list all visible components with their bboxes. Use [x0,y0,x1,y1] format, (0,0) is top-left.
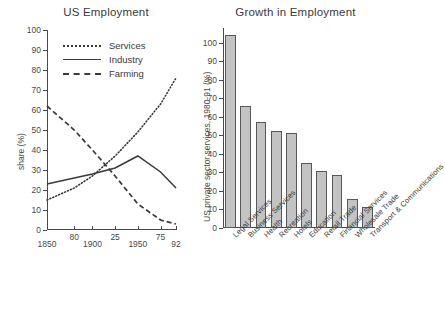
legend-item-services: Services [63,38,173,52]
series-line-services [47,78,176,200]
y-tick-label-90: 90 [208,56,223,66]
y-tick-label-10: 10 [32,205,47,215]
y-tick-label-0: 0 [36,225,47,235]
chart-panel-us-employment: US Employment share (%) 0102030405060708… [0,0,196,334]
y-tick-label-100: 100 [203,38,223,48]
legend-swatch-dotted-icon [63,40,101,50]
y-tick-label-80: 80 [32,65,47,75]
y-tick-label-0: 0 [212,223,223,233]
plot-area-growth-in-employment: 0102030405060708090100 Legal ServicesBus… [223,28,375,228]
series-line-farming [47,106,176,224]
y-tick-label-90: 90 [32,45,47,55]
bar-series-group [223,28,375,228]
y-tick-label-60: 60 [208,112,223,122]
x-tick-label-1850: 1850 [38,239,57,249]
y-tick-label-20: 20 [208,186,223,196]
y-tick-label-100: 100 [27,25,47,35]
legend-swatch-dashed-icon [63,68,101,78]
x-tick-label-75: 75 [156,232,165,242]
x-tick-mark-6 [176,226,177,230]
x-tick-label-1900: 1900 [83,239,102,249]
y-tick-label-70: 70 [208,93,223,103]
y-tick-label-10: 10 [208,204,223,214]
y-tick-label-40: 40 [208,149,223,159]
legend-item-farming: Farming [63,66,173,80]
bar-legal-services[interactable] [225,35,236,228]
y-tick-label-60: 60 [32,105,47,115]
y-tick-label-80: 80 [208,75,223,85]
y-tick-label-20: 20 [32,185,47,195]
legend-swatch-solid-icon [63,54,101,64]
chart-title-us-employment: US Employment [0,6,204,18]
legend-label-industry: Industry [109,54,143,65]
bar-business-services[interactable] [240,106,251,228]
y-tick-label-30: 30 [208,167,223,177]
legend-label-services: Services [109,40,145,51]
y-tick-label-50: 50 [208,130,223,140]
legend-item-industry: Industry [63,52,173,66]
chart-title-growth-in-employment: Growth in Employment [190,6,395,18]
y-tick-label-70: 70 [32,85,47,95]
y-tick-label-50: 50 [32,125,47,135]
y-tick-label-30: 30 [32,165,47,175]
x-tick-label-80: 80 [70,232,79,242]
x-tick-label-92: 92 [171,239,180,249]
y-tick-label-40: 40 [32,145,47,155]
x-tick-label-1950: 1950 [128,239,147,249]
x-tick-label-25: 25 [110,232,119,242]
chart-panel-growth-in-employment: Growth in Employment US private sector s… [190,0,389,334]
chart-legend: Services Industry Farming [63,38,173,80]
y-axis-label-share: share (%) [16,133,26,170]
legend-label-farming: Farming [109,68,144,79]
